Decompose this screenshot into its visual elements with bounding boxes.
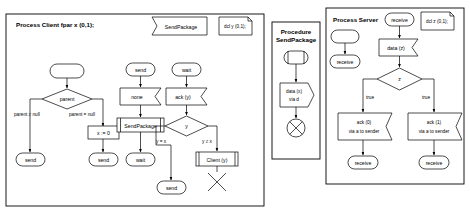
client-title: Process Client fpar x (0,1); [16,21,94,28]
client-task-x0-label: x := 0 [97,130,110,136]
client-state-wait-top-label: wait [182,67,192,73]
server-decision-z-label: z [398,76,401,82]
client-call-sendpackage-label: SendPackage [124,123,156,129]
client-state-send-2-label: send [98,157,109,163]
server-output-ack1-line2: via a to sender [419,129,450,134]
client-branch-yneqx-label: y ≠ x [202,139,213,144]
server-state-receive-1-label: receive [355,160,372,166]
client-input-none-label: none [131,94,143,100]
client-state-send-1-label: send [25,157,36,163]
procedure-return-icon [287,119,305,137]
diagram-canvas: Process Client fpar x (0,1); SendPackage… [0,0,470,213]
procedure-output-data [280,83,314,107]
client-decision-y-label: y [185,123,188,129]
server-output-ack0-line2: via a to sender [349,129,380,134]
server-input-data-label: data (z) [387,45,405,51]
server-output-ack0-line1: ack (0) [357,120,372,125]
server-note-label: dcl z (0,1); [426,19,448,24]
server-output-ack1 [408,113,462,140]
procedure-output-data-line2: via d [289,97,299,102]
procedure-output-data-line1: data (x) [286,89,302,94]
client-branch-left-label: parent ≠ null [14,112,40,117]
client-input-ack-label: ack (y) [175,94,191,100]
server-state-receive-2-label: receive [426,160,443,166]
server-title: Process Server [333,16,379,23]
server-state-receive-left-label: receive [337,59,354,65]
procedure-title-line1: Procedure [281,28,312,35]
server-branch-right-label: true [422,95,430,100]
client-decision-parent-label: parent [60,96,75,102]
client-start-symbol [50,64,84,78]
client-state-send-top-label: send [135,67,146,73]
client-task-client-label: Client (y) [207,157,228,163]
client-state-wait-mid-label: wait [136,157,146,163]
client-state-send-bottom-label: send [166,185,177,191]
server-output-ack1-line1: ack (1) [427,120,442,125]
client-call-sendpackage-top-label: SendPackage [165,24,197,30]
server-state-receive-top-label: receive [391,17,408,23]
panel-client [6,14,264,206]
client-note-label: dcl y (0,1); [224,24,246,29]
procedure-start-symbol [284,51,308,64]
procedure-title-line2: SendPackage [276,36,317,43]
server-branch-left-label: true [366,95,374,100]
client-branch-right-label: parent = null [69,112,95,117]
client-branch-yeqx-label: y = x [156,139,167,144]
server-start-symbol [331,30,359,43]
server-output-ack0 [338,113,392,140]
